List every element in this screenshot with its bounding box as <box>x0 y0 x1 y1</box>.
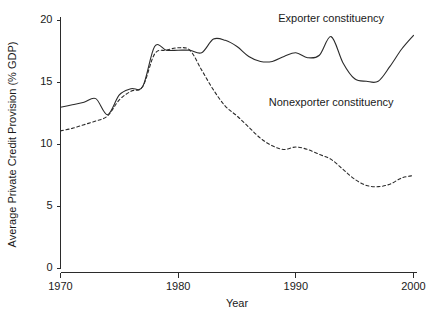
x-axis-ticks: 1970198019902000 <box>48 273 425 292</box>
series-line-nonexporter <box>61 48 414 187</box>
series-label-nonexporter: Nonexporter constituency <box>269 96 394 108</box>
y-tick-label: 20 <box>40 13 52 25</box>
series-label-exporter: Exporter constituency <box>278 12 384 24</box>
x-tick-label: 2000 <box>401 280 425 292</box>
series-annotations: Exporter constituencyNonexporter constit… <box>269 12 394 108</box>
y-tick-label: 0 <box>46 261 52 273</box>
y-tick-label: 15 <box>40 75 52 87</box>
x-tick-label: 1980 <box>166 280 190 292</box>
x-tick-label: 1990 <box>284 280 308 292</box>
y-axis-title: Average Private Credit Provision (% GDP) <box>6 42 18 248</box>
y-tick-label: 10 <box>40 137 52 149</box>
series-lines <box>61 35 414 186</box>
x-tick-label: 1970 <box>48 280 72 292</box>
y-axis-ticks: 05101520 <box>40 13 60 273</box>
x-axis-title: Year <box>226 297 249 309</box>
y-tick-label: 5 <box>46 199 52 211</box>
chart-figure: 05101520 1970198019902000 Exporter const… <box>0 0 436 320</box>
line-chart-canvas: 05101520 1970198019902000 Exporter const… <box>0 0 436 320</box>
